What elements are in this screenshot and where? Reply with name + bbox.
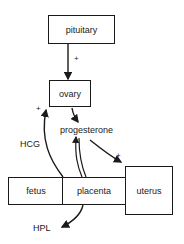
arrow-hcg-ovary <box>44 110 63 177</box>
arrow-ovary-progesterone <box>72 108 78 122</box>
node-pituitary-label: pituitary <box>66 25 98 35</box>
sign-progesterone-uterus: + <box>116 151 121 160</box>
node-fetus-label: fetus <box>26 186 46 196</box>
node-fetus: fetus <box>8 177 64 205</box>
node-placenta: placenta <box>62 177 126 205</box>
node-uterus-label: uterus <box>136 186 161 196</box>
sign-hcg-ovary: + <box>36 104 41 113</box>
label-progesterone: progesterone <box>60 125 113 135</box>
node-pituitary: pituitary <box>48 15 115 44</box>
node-ovary: ovary <box>49 80 91 107</box>
node-placenta-label: placenta <box>77 186 111 196</box>
sign-pituitary-ovary: + <box>74 54 79 63</box>
node-ovary-label: ovary <box>59 89 81 99</box>
arrow-placenta-hpl <box>62 205 83 227</box>
node-uterus: uterus <box>125 166 173 215</box>
label-hpl: HPL <box>33 223 51 233</box>
label-hcg: HCG <box>20 139 40 149</box>
